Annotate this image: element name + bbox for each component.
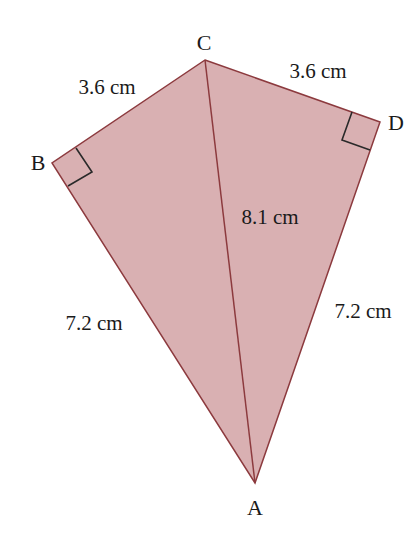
- kite-shape: [52, 60, 380, 483]
- vertex-label-a: A: [247, 495, 263, 520]
- measurement-ab: 7.2 cm: [65, 311, 122, 335]
- measurement-ad: 7.2 cm: [334, 299, 391, 323]
- vertex-label-d: D: [388, 110, 404, 135]
- kite-diagram: C B D A 3.6 cm 3.6 cm 8.1 cm 7.2 cm 7.2 …: [0, 0, 420, 543]
- measurement-ac: 8.1 cm: [241, 205, 298, 229]
- measurement-cd: 3.6 cm: [289, 59, 346, 83]
- vertex-label-b: B: [31, 150, 46, 175]
- measurement-bc: 3.6 cm: [78, 75, 135, 99]
- vertex-label-c: C: [197, 30, 212, 55]
